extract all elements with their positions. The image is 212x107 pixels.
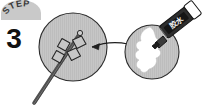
stem-tip-bud (77, 30, 82, 35)
step-number: 3 (6, 23, 22, 54)
step-illustration: STEP 3 (0, 0, 212, 107)
